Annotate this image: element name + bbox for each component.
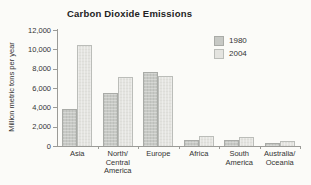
x-tick-mark: [98, 146, 99, 149]
y-tick-label: 8,000: [13, 64, 51, 73]
legend-row-1980: 1980: [214, 34, 247, 47]
legend-label-2004: 2004: [229, 49, 247, 58]
bar-1980-south-america: [224, 140, 239, 146]
x-tick-mark: [300, 146, 301, 149]
y-tick-mark: [53, 69, 57, 70]
category-label-australia-oceania: Australia/Oceania: [254, 150, 307, 167]
y-axis-line: [57, 29, 58, 147]
co2-emissions-bar-chart: Carbon Dioxide Emissions Million metric …: [0, 0, 311, 185]
legend-label-1980: 1980: [229, 36, 247, 45]
bar-2004-north-central-america: [118, 77, 133, 146]
bar-1980-australia-oceania: [265, 143, 280, 146]
y-tick-label: 12,000: [13, 26, 51, 35]
bar-2004-australia-oceania: [280, 141, 295, 146]
x-tick-mark: [219, 146, 220, 149]
x-tick-mark: [260, 146, 261, 149]
bar-1980-europe: [143, 72, 158, 146]
bar-1980-africa: [184, 140, 199, 146]
legend: 19802004: [214, 34, 247, 60]
y-tick-mark: [53, 88, 57, 89]
legend-row-2004: 2004: [214, 47, 247, 60]
y-tick-mark: [53, 49, 57, 50]
y-tick-mark: [53, 127, 57, 128]
legend-swatch-2004: [214, 49, 224, 59]
y-tick-label: 6,000: [13, 84, 51, 93]
y-tick-mark: [53, 30, 57, 31]
y-tick-label: 0: [13, 142, 51, 151]
bar-2004-south-america: [239, 137, 254, 146]
x-tick-mark: [179, 146, 180, 149]
y-tick-label: 10,000: [13, 45, 51, 54]
y-tick-mark: [53, 107, 57, 108]
legend-swatch-1980: [214, 36, 224, 46]
bar-2004-europe: [158, 76, 173, 146]
bar-2004-africa: [199, 136, 214, 146]
chart-title: Carbon Dioxide Emissions: [67, 8, 192, 19]
bar-1980-north-central-america: [103, 93, 118, 146]
y-tick-label: 4,000: [13, 103, 51, 112]
y-tick-label: 2,000: [13, 122, 51, 131]
x-tick-mark: [138, 146, 139, 149]
y-tick-mark: [53, 146, 57, 147]
bar-2004-asia: [77, 45, 92, 146]
bar-1980-asia: [62, 109, 77, 146]
